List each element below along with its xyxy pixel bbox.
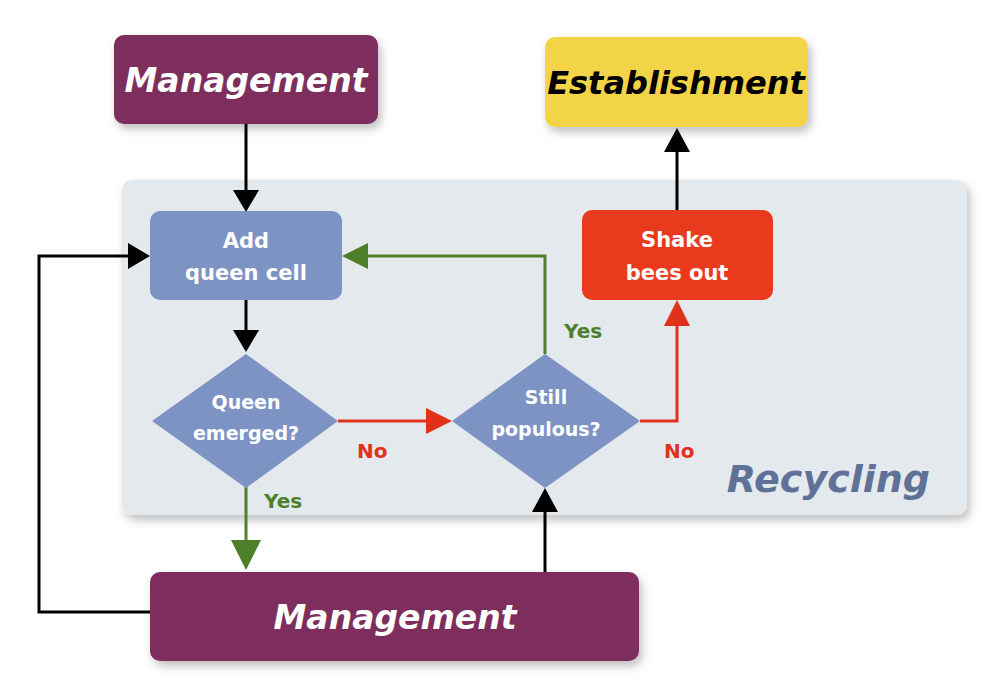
- node-management-top: Management: [114, 35, 378, 124]
- label-queen-yes: Yes: [263, 489, 302, 513]
- node-add-queen-cell: Add queen cell: [150, 211, 342, 300]
- still-populous-line1: Still: [525, 386, 567, 408]
- node-shake-bees-out: Shake bees out: [582, 210, 773, 300]
- queen-emerged-line1: Queen: [212, 391, 281, 413]
- establishment-label: Establishment: [547, 64, 806, 102]
- label-populous-no: No: [664, 439, 694, 463]
- shake-bees-out-line2: bees out: [626, 261, 729, 285]
- node-establishment: Establishment: [545, 37, 808, 127]
- recycling-label: Recycling: [727, 457, 930, 501]
- add-queen-cell-line2: queen cell: [185, 261, 307, 285]
- label-queen-no: No: [357, 439, 387, 463]
- add-queen-cell-line1: Add: [223, 229, 269, 253]
- shake-bees-out-line1: Shake: [641, 228, 713, 252]
- management-bottom-label: Management: [274, 598, 518, 637]
- flowchart: Recycling No Yes Yes No Management Estab…: [0, 0, 988, 700]
- queen-emerged-line2: emerged?: [193, 422, 299, 444]
- still-populous-line2: populous?: [491, 418, 600, 440]
- management-top-label: Management: [125, 61, 369, 100]
- node-management-bottom: Management: [150, 572, 639, 661]
- arrowhead-up-icon: [664, 128, 690, 152]
- arrowhead-down-icon: [231, 540, 261, 570]
- label-populous-yes: Yes: [563, 319, 602, 343]
